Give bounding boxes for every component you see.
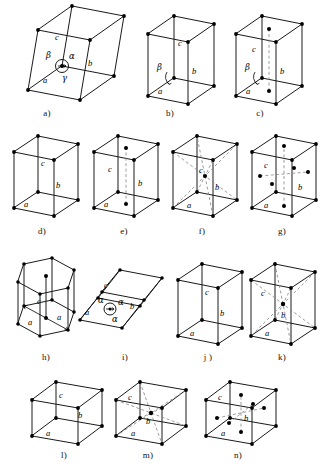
dashed-center-lines — [217, 395, 264, 432]
axis-label-a: a — [46, 428, 50, 438]
axis-label-c: c — [55, 32, 59, 42]
bravais-lattice-figure: a b c β α γ a) — [0, 0, 320, 472]
caption-g: g) — [262, 226, 302, 236]
angle-label-alpha-3: α — [112, 314, 118, 324]
axis-label-c: c — [128, 392, 132, 402]
angle-label-beta: β — [156, 62, 162, 72]
caption-i: i) — [105, 352, 145, 362]
axis-label-a: a — [43, 75, 47, 85]
unit-cell-b-monoclinic: a b c β — [140, 4, 220, 108]
axis-label-c: c — [218, 392, 222, 402]
axis-label-b: b — [146, 416, 150, 426]
axis-label-a: a — [246, 86, 250, 96]
caption-e: e) — [104, 226, 144, 236]
caption-h: h) — [26, 352, 66, 362]
axis-label-a: a — [264, 200, 268, 210]
axis-label-b: b — [220, 308, 224, 318]
axis-label-b: b — [244, 413, 248, 423]
angle-label-alpha: α — [69, 51, 75, 61]
axis-label-c: c — [205, 287, 209, 297]
caption-j: j ) — [188, 352, 228, 362]
body-center-point — [281, 302, 285, 306]
axis-label-b: b — [192, 66, 196, 76]
axis-label-c: c — [261, 288, 265, 298]
unit-cell-l-cubic: a b c — [26, 376, 110, 450]
caption-b: b) — [150, 108, 190, 118]
axis-label-c: c — [178, 38, 182, 48]
unit-cell-d-orthorhombic: a b c — [8, 128, 86, 220]
caption-c: c) — [240, 108, 280, 118]
unit-cell-n-cubic-face-centered: a b c — [200, 376, 288, 450]
unit-cell-k-tetragonal-body-centered: a b c — [245, 258, 320, 350]
axis-label-a: a — [24, 199, 28, 209]
axis-label-c: c — [264, 160, 268, 170]
axis-label-b: b — [88, 58, 92, 68]
angle-label-alpha-1: α — [98, 295, 104, 305]
axis-label-a: a — [221, 428, 225, 438]
unit-cell-g-orthorhombic-face-centered: a b c — [246, 128, 320, 220]
angle-label-beta: β — [45, 50, 51, 60]
unit-cell-j-tetragonal: a b c — [172, 258, 250, 350]
caption-l: l) — [44, 450, 84, 460]
axis-label-b: b — [130, 301, 134, 311]
lattice-point-group — [26, 4, 126, 102]
angle-label-beta: β — [244, 62, 250, 72]
axis-label-a: a — [265, 328, 269, 338]
unit-cell-m-cubic-body-centered: a b c — [110, 376, 194, 450]
axis-label-c: c — [59, 390, 63, 400]
axis-label-a2: a — [57, 312, 61, 322]
axis-label-c: c — [199, 165, 203, 175]
axis-label-a: a — [190, 328, 194, 338]
axis-label-b: b — [78, 410, 82, 420]
unit-cell-a-triclinic: a b c β α γ — [18, 4, 128, 108]
axis-label-b: b — [298, 182, 302, 192]
axis-label-b: b — [138, 178, 142, 188]
angle-label-gamma: γ — [62, 73, 68, 83]
axis-label-a1: a — [28, 317, 32, 327]
axis-label-a: a — [187, 200, 191, 210]
caption-f: f) — [182, 226, 222, 236]
caption-k: k) — [262, 352, 302, 362]
axis-label-a: a — [104, 199, 108, 209]
axis-label-a: a — [131, 428, 135, 438]
unit-cell-i-rhombohedral: a b c α α α — [74, 262, 168, 342]
caption-a: a) — [27, 108, 67, 118]
axis-label-b: b — [215, 182, 219, 192]
unit-cell-e-orthorhombic-base-centered: a b c — [88, 128, 168, 220]
axis-label-c: c — [108, 164, 112, 174]
axis-label-c: c — [41, 158, 45, 168]
unit-cell-c-monoclinic-base-centered: a b c β — [228, 4, 312, 108]
caption-d: d) — [22, 226, 62, 236]
angle-label-alpha-2: α — [118, 297, 124, 307]
caption-n: n) — [218, 450, 258, 460]
axis-label-b: b — [281, 310, 285, 320]
unit-cell-f-orthorhombic-body-centered: a b c — [167, 128, 249, 220]
axis-label-b: b — [280, 66, 284, 76]
body-center-point — [203, 174, 207, 178]
caption-m: m) — [128, 450, 168, 460]
axis-label-a: a — [158, 86, 162, 96]
axis-label-c: c — [37, 296, 41, 306]
axis-label-c: c — [252, 44, 256, 54]
axis-label-a: a — [85, 307, 89, 317]
body-center-point — [149, 411, 153, 415]
axis-label-b: b — [56, 180, 60, 190]
axis-label-c: c — [104, 280, 108, 290]
